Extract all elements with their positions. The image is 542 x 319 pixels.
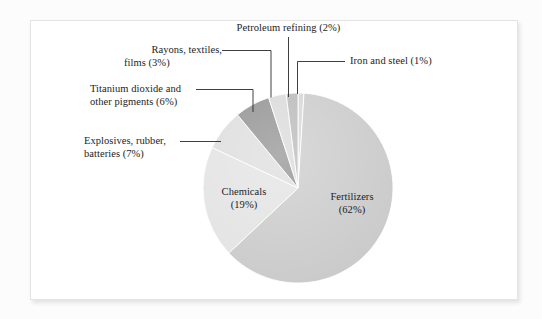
fertilizers-line-1: Fertilizers (308, 190, 396, 203)
rayons-line-1: Rayons, textiles, (122, 44, 222, 57)
iron-and-steel-text: Iron and steel (1%) (350, 55, 432, 66)
pie-chart-figure (0, 0, 542, 319)
slice-label-rayons-textiles-films: Rayons, textiles, films (3%) (122, 44, 222, 69)
slice-label-petroleum-refining: Petroleum refining (2%) (222, 22, 355, 35)
rayons-line-2: films (3%) (124, 57, 222, 70)
petroleum-refining-text: Petroleum refining (2%) (237, 22, 341, 33)
leader-line-titanium-dioxide (196, 90, 253, 113)
leader-line-rayons-textiles-films (222, 51, 271, 98)
chemicals-line-1: Chemicals (200, 185, 288, 198)
slice-label-titanium-dioxide: Titanium dioxide and other pigments (6%) (90, 83, 200, 108)
slice-label-explosives-rubber-batteries: Explosives, rubber, batteries (7%) (84, 135, 194, 160)
leader-line-iron-and-steel (298, 62, 346, 95)
fertilizers-line-2: (62%) (308, 203, 396, 216)
slice-label-fertilizers: Fertilizers (62%) (308, 190, 396, 216)
titanium-line-2: other pigments (6%) (90, 96, 200, 109)
explosives-line-1: Explosives, rubber, (84, 135, 194, 148)
slice-label-chemicals: Chemicals (19%) (200, 185, 288, 211)
chart-page: Petroleum refining (2%) Rayons, textiles… (0, 0, 542, 319)
titanium-line-1: Titanium dioxide and (90, 83, 200, 96)
explosives-line-2: batteries (7%) (84, 148, 194, 161)
slice-label-iron-and-steel: Iron and steel (1%) (350, 55, 470, 68)
chemicals-line-2: (19%) (200, 198, 288, 211)
